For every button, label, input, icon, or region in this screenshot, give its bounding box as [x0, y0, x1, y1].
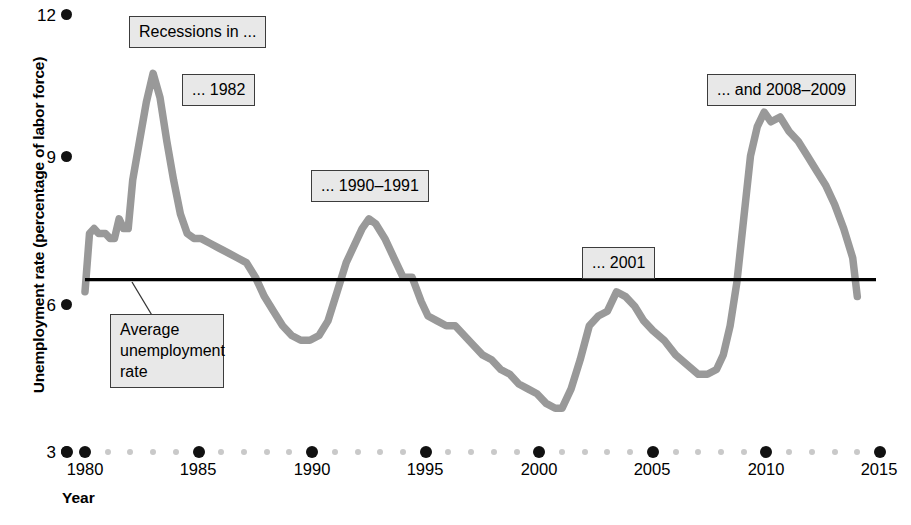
chart-figure: Unemployment rate (percentage of labor f… [0, 0, 911, 525]
x-tick-label-2000: 2000 [511, 461, 567, 478]
x-axis-dot-2015 [874, 446, 886, 458]
annotation-recession-2001: ... 2001 [582, 247, 655, 279]
x-axis-dot-1984 [173, 449, 179, 455]
x-axis-title: Year [62, 489, 95, 507]
annotation-recessions-in: Recessions in ... [129, 16, 266, 48]
annotation-recession-1990-1991: ... 1990–1991 [311, 170, 429, 202]
x-axis-dot-1994 [400, 449, 406, 455]
x-axis-dot-2002 [582, 449, 588, 455]
x-axis-dot-1988 [264, 449, 270, 455]
x-tick-label-1985: 1985 [170, 461, 226, 478]
x-axis-dot-2012 [809, 449, 815, 455]
x-axis-dot-2009 [741, 449, 747, 455]
x-axis-dot-1992 [355, 449, 361, 455]
x-axis-dot-1980 [79, 446, 91, 458]
x-axis-dot-2008 [718, 449, 724, 455]
x-axis-dot-2006 [673, 449, 679, 455]
x-axis-dot-1991 [332, 449, 338, 455]
x-axis-dot-1981 [105, 449, 111, 455]
x-axis-dot-1999 [514, 449, 520, 455]
x-axis-dot-2013 [832, 449, 838, 455]
x-tick-label-2015: 2015 [851, 461, 907, 478]
x-axis-dot-1998 [491, 449, 497, 455]
x-tick-label-1980: 1980 [57, 461, 113, 478]
x-axis-dot-1985 [193, 446, 205, 458]
x-axis-origin-dot [61, 446, 73, 458]
x-axis-dot-1995 [420, 446, 432, 458]
x-tick-label-1990: 1990 [284, 461, 340, 478]
average-callout-leader [132, 282, 153, 317]
annotation-average-unemployment-rate: Average unemployment rate [110, 314, 224, 388]
x-axis-dot-1987 [241, 449, 247, 455]
x-axis-dot-2005 [647, 446, 659, 458]
annotation-recession-1982: ... 1982 [182, 74, 255, 106]
x-axis-dot-2001 [559, 449, 565, 455]
x-tick-label-2010: 2010 [738, 461, 794, 478]
x-tick-label-2005: 2005 [624, 461, 680, 478]
x-tick-label-1995: 1995 [397, 461, 453, 478]
annotation-recession-2008-2009: ... and 2008–2009 [707, 74, 856, 106]
